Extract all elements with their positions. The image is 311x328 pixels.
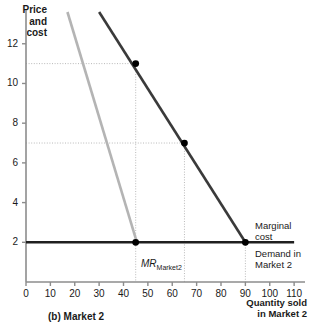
y-tick-label-12: 12 [0,38,18,49]
x-tick-label-20: 20 [63,288,87,299]
x-tick-label-50: 50 [136,288,160,299]
x-tick-label-60: 60 [160,288,184,299]
x-tick-label-80: 80 [209,288,233,299]
x-tick-label-70: 70 [185,288,209,299]
y-tick-label-2: 2 [0,236,18,247]
annotation-marginal-revenue: MRMarket2 [141,258,182,273]
y-tick-label-4: 4 [0,197,18,208]
x-tick-label-90: 90 [233,288,257,299]
annotation-marginal-cost: Marginal cost [255,220,291,242]
panel-label: (b) Market 2 [48,311,104,322]
x-axis-title: Quantity sold in Market 2 [187,297,307,319]
chart-canvas [0,0,311,328]
x-tick-label-30: 30 [87,288,111,299]
data-point-0 [132,60,139,67]
x-tick-label-0: 0 [14,288,38,299]
mr-label-subscript: Market2 [157,264,182,271]
x-tick-label-10: 10 [38,288,62,299]
x-tick-label-110: 110 [282,288,306,299]
series-line-mr-market2 [67,12,136,242]
x-tick-label-40: 40 [112,288,136,299]
data-point-1 [181,140,188,147]
y-tick-label-6: 6 [0,157,18,168]
y-tick-label-10: 10 [0,77,18,88]
data-point-2 [132,239,139,246]
x-tick-label-100: 100 [258,288,282,299]
figure-panel-market-2: Price and cost Marginal cost Demand in M… [0,0,311,328]
mr-label-main: MR [141,258,157,269]
data-point-3 [242,239,249,246]
series-line-demand-in-market-2 [99,12,245,242]
annotation-demand-market-2: Demand in Market 2 [255,248,301,270]
y-tick-label-8: 8 [0,117,18,128]
